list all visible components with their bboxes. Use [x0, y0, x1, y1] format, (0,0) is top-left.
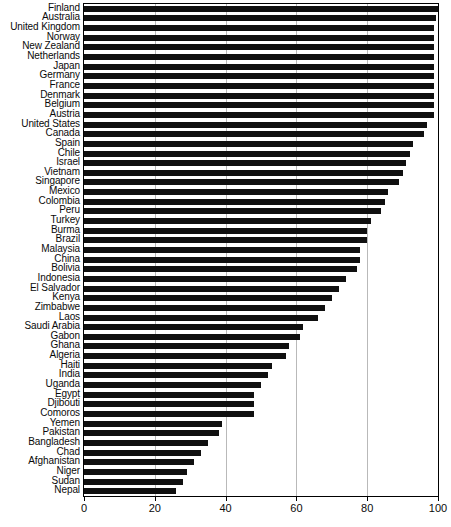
bar-row	[84, 430, 438, 436]
bar	[84, 44, 434, 50]
bar-row	[84, 131, 438, 137]
x-tick-label-0: 0	[81, 502, 87, 514]
bar	[84, 334, 300, 340]
bar-row	[84, 459, 438, 465]
bar-row	[84, 83, 438, 89]
bar	[84, 382, 261, 388]
bar	[84, 343, 289, 349]
bar-row	[84, 151, 438, 157]
bar	[84, 199, 385, 205]
bar	[84, 112, 434, 118]
bar	[84, 363, 272, 369]
bar	[84, 286, 339, 292]
bar-row	[84, 295, 438, 301]
bar-row	[84, 266, 438, 272]
bar-row	[84, 450, 438, 456]
bar-row	[84, 160, 438, 166]
bar-row	[84, 421, 438, 427]
bar-row	[84, 73, 438, 79]
bar	[84, 276, 346, 282]
bar-chart: FinlandAustraliaUnited KingdomNorwayNew …	[0, 0, 451, 527]
x-tick-80	[367, 497, 368, 501]
bar	[84, 83, 434, 89]
bar-row	[84, 382, 438, 388]
bar-row	[84, 179, 438, 185]
bar-row	[84, 93, 438, 99]
category-axis-labels: FinlandAustraliaUnited KingdomNorwayNew …	[0, 3, 80, 495]
bar-row	[84, 257, 438, 263]
bar-row	[84, 64, 438, 70]
bar-row	[84, 392, 438, 398]
bar	[84, 479, 183, 485]
x-tick-0	[84, 497, 85, 501]
bar-row	[84, 15, 438, 21]
bar	[84, 102, 434, 108]
bar-row	[84, 228, 438, 234]
bar-row	[84, 440, 438, 446]
bar	[84, 266, 357, 272]
x-tick-20	[155, 497, 156, 501]
plot-area	[83, 3, 439, 497]
bar-row	[84, 353, 438, 359]
bar	[84, 189, 388, 195]
bar	[84, 372, 268, 378]
bar	[84, 179, 399, 185]
bar-row	[84, 286, 438, 292]
bar	[84, 247, 360, 253]
bar-row	[84, 305, 438, 311]
bar	[84, 459, 194, 465]
bar	[84, 392, 254, 398]
bar-row	[84, 479, 438, 485]
bar	[84, 35, 434, 41]
x-tick-60	[296, 497, 297, 501]
x-tick-40	[226, 497, 227, 501]
bar-row	[84, 401, 438, 407]
bar-row	[84, 189, 438, 195]
bar-row	[84, 218, 438, 224]
bar	[84, 15, 436, 21]
x-tick-label-20: 20	[149, 502, 161, 514]
bar-row	[84, 54, 438, 60]
bar-row	[84, 199, 438, 205]
bar	[84, 131, 424, 137]
bar	[84, 25, 434, 31]
x-axis: 020406080100	[83, 497, 439, 523]
bar	[84, 218, 371, 224]
bar	[84, 160, 406, 166]
bar	[84, 353, 286, 359]
bar	[84, 488, 176, 494]
bar-row	[84, 276, 438, 282]
bar	[84, 440, 208, 446]
bar-row	[84, 102, 438, 108]
bar	[84, 122, 427, 128]
bar	[84, 54, 434, 60]
bar-row	[84, 44, 438, 50]
bar	[84, 64, 434, 70]
bar-row	[84, 363, 438, 369]
bar-row	[84, 324, 438, 330]
bar-row	[84, 372, 438, 378]
bar	[84, 315, 318, 321]
bar-row	[84, 122, 438, 128]
bar	[84, 469, 187, 475]
bar-row	[84, 247, 438, 253]
bar-row	[84, 315, 438, 321]
bar	[84, 324, 303, 330]
bar	[84, 73, 434, 79]
x-tick-label-40: 40	[219, 502, 231, 514]
bar-row	[84, 25, 438, 31]
bar	[84, 208, 381, 214]
bar	[84, 421, 222, 427]
bar	[84, 257, 360, 263]
bar	[84, 401, 254, 407]
bar	[84, 93, 434, 99]
bar	[84, 237, 367, 243]
bar-row	[84, 141, 438, 147]
bar	[84, 228, 367, 234]
bar-row	[84, 343, 438, 349]
category-label: Nepal	[0, 485, 80, 495]
bar-series	[84, 4, 438, 496]
bar-row	[84, 112, 438, 118]
bar-row	[84, 35, 438, 41]
bar	[84, 295, 332, 301]
